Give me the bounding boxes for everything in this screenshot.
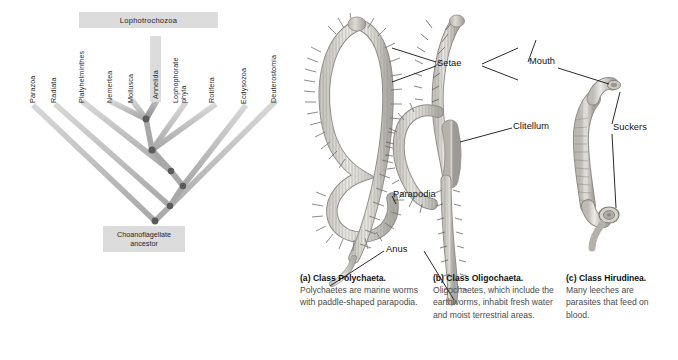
- taxon-label-ecdysozoa: Ecdysozoa: [240, 44, 248, 104]
- caption-row: (a) Class Polychaeta. Polychaetes are ma…: [300, 272, 678, 360]
- caption-hirudinea: (c) Class Hirudinea. Many leeches are pa…: [566, 272, 678, 360]
- ancestor-box: Choanoflagellate ancestor: [103, 226, 185, 252]
- annelid-phylogeny-figure: Lophotrochozoa Parazoa Radiata Platyhelm…: [0, 0, 678, 360]
- taxon-label-deuterostomia: Deuterostomia: [270, 29, 278, 103]
- taxon-label-nemertea: Nemertea: [106, 45, 114, 103]
- taxon-label-platyhelminthes: Platyhelminthes: [78, 28, 86, 103]
- annotation-clitellum: Clitellum: [513, 121, 549, 131]
- taxon-label-rotifera: Rotifera: [208, 48, 216, 103]
- caption-oligochaeta: (b) Class Oligochaeta. Oligochaetes, whi…: [433, 272, 566, 360]
- ancestor-line-1: Choanoflagellate: [117, 230, 171, 239]
- clade-bar-lophotrochozoa: Lophotrochozoa: [79, 12, 218, 28]
- caption-hirudinea-head: (c) Class Hirudinea.: [566, 273, 646, 283]
- taxon-label-radiata: Radiata: [50, 49, 58, 103]
- caption-polychaeta-body: Polychaetes are marine worms with paddle…: [300, 285, 418, 307]
- taxon-label-mollusca: Mollusca: [127, 48, 135, 103]
- caption-polychaeta: (a) Class Polychaeta. Polychaetes are ma…: [300, 272, 433, 360]
- caption-hirudinea-body: Many leeches are parasites that feed on …: [566, 285, 649, 319]
- annotation-suckers: Suckers: [613, 122, 647, 132]
- annotation-anus: Anus: [386, 244, 407, 254]
- annotation-mouth: Mouth: [529, 56, 555, 66]
- annotation-setae: Setae: [437, 58, 462, 68]
- taxon-label-lophophorate-phyla: Lophophorate phyla: [172, 35, 188, 103]
- cladogram-panel: Lophotrochozoa Parazoa Radiata Platyhelm…: [0, 0, 300, 360]
- caption-oligochaeta-body: Oligochaetes, which include the earthwor…: [433, 285, 554, 319]
- taxon-label-parazoa: Parazoa: [29, 49, 37, 103]
- annotation-parapodia: Parapodia: [393, 189, 436, 199]
- ancestor-line-2: ancestor: [130, 239, 158, 248]
- taxon-label-annelida: Annelida: [150, 36, 161, 102]
- caption-polychaeta-head: (a) Class Polychaeta.: [300, 273, 386, 283]
- caption-oligochaeta-head: (b) Class Oligochaeta.: [433, 273, 523, 283]
